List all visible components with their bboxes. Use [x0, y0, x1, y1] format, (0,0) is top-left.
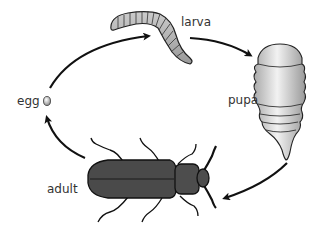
label-egg: egg	[17, 95, 40, 107]
label-pupa: pupa	[228, 94, 258, 106]
adult-beetle-icon	[88, 138, 216, 222]
pupa-icon	[254, 44, 306, 160]
diagram-graphics	[0, 0, 320, 231]
arrow-adult-to-egg	[47, 118, 85, 158]
label-adult: adult	[47, 183, 78, 195]
egg-icon	[44, 97, 51, 106]
label-larva: larva	[181, 16, 211, 28]
arrow-egg-to-larva	[50, 36, 148, 88]
life-cycle-diagram: egg larva pupa adult	[0, 0, 320, 231]
larva-icon	[111, 11, 192, 64]
arrow-larva-to-pupa	[190, 38, 250, 55]
arrow-pupa-to-adult	[225, 163, 287, 198]
